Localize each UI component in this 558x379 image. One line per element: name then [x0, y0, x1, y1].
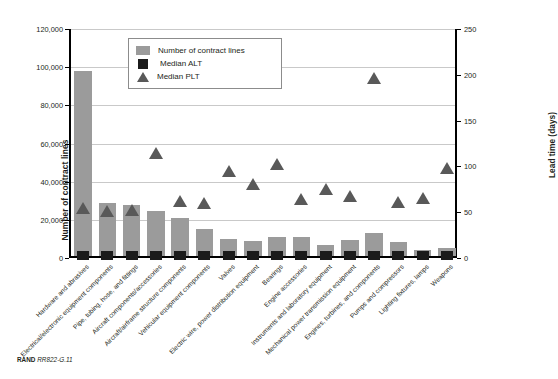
- median-alt-marker: [441, 251, 453, 260]
- y-tick-mark-right: [457, 258, 461, 259]
- x-axis-label: Valves: [217, 263, 236, 282]
- x-axis-label: Weapons: [429, 263, 454, 288]
- median-alt-marker: [150, 251, 162, 260]
- median-alt-marker: [126, 251, 138, 260]
- y-tick-label-left: 100,000: [36, 63, 63, 72]
- legend-label-median-plt: Median PLT: [157, 72, 200, 81]
- gridline: [71, 144, 455, 145]
- gridline: [71, 105, 455, 106]
- x-axis-label: Engine accessories: [263, 263, 309, 309]
- legend-item-median-alt: Median ALT: [136, 57, 274, 70]
- median-plt-marker: [173, 195, 187, 207]
- x-axis-label: Electrical/electronic equipment componen…: [19, 263, 115, 359]
- y-tick-label-right: 50: [464, 208, 472, 217]
- median-alt-marker: [198, 251, 210, 260]
- y-tick-mark-right: [457, 212, 461, 213]
- bar-swatch-icon: [136, 46, 150, 55]
- median-plt-marker: [222, 165, 236, 177]
- y-tick-label-right: 150: [464, 116, 476, 125]
- y-tick-mark-right: [457, 29, 461, 30]
- y-tick-mark-right: [457, 166, 461, 167]
- y-tick-label-left: 40,000: [40, 177, 63, 186]
- y-tick-label-left: 120,000: [36, 25, 63, 34]
- y-tick-mark-right: [457, 75, 461, 76]
- median-plt-marker: [391, 196, 405, 208]
- median-alt-marker: [392, 251, 404, 260]
- legend: Number of contract lines Median ALT Medi…: [128, 38, 282, 89]
- y-tick-mark-left: [65, 182, 69, 183]
- footer-id: RR822-G.11: [37, 356, 72, 363]
- y-tick-mark-right: [457, 121, 461, 122]
- median-plt-marker: [100, 205, 114, 217]
- y-tick-mark-left: [65, 29, 69, 30]
- y-tick-mark-left: [65, 67, 69, 68]
- x-axis-label: Mechanical power transmission equipment: [264, 263, 358, 357]
- y-tick-label-left: 20,000: [40, 215, 63, 224]
- footer-brand: RAND: [17, 356, 35, 363]
- median-plt-marker: [197, 197, 211, 209]
- median-alt-marker: [247, 251, 259, 260]
- median-plt-marker: [149, 147, 163, 159]
- median-alt-marker: [101, 251, 113, 260]
- bar-contract-lines: [147, 211, 165, 256]
- median-plt-marker: [319, 183, 333, 195]
- y-tick-label-left: 0: [59, 254, 63, 263]
- y-tick-label-right: 0: [464, 254, 468, 263]
- y-tick-mark-left: [65, 144, 69, 145]
- square-swatch-icon: [138, 59, 148, 69]
- legend-label-contract-lines: Number of contract lines: [158, 46, 245, 55]
- bar-contract-lines: [74, 71, 92, 256]
- median-alt-marker: [417, 251, 429, 260]
- legend-item-median-plt: Median PLT: [136, 70, 274, 83]
- legend-item-contract-lines: Number of contract lines: [136, 44, 274, 57]
- y-tick-label-right: 250: [464, 25, 476, 34]
- figure-root: Number of contract lines Lead time (days…: [0, 0, 558, 379]
- y-tick-label-left: 80,000: [40, 101, 63, 110]
- median-plt-marker: [246, 178, 260, 190]
- median-plt-marker: [367, 72, 381, 84]
- gridline: [71, 29, 455, 30]
- x-axis-label: Lighting fixtures, lamps: [377, 263, 430, 316]
- median-alt-marker: [271, 251, 283, 260]
- legend-label-median-alt: Median ALT: [160, 59, 202, 68]
- y-tick-label-left: 60,000: [40, 139, 63, 148]
- y-tick-mark-left: [65, 105, 69, 106]
- y-tick-label-right: 200: [464, 70, 476, 79]
- median-alt-marker: [77, 251, 89, 260]
- median-plt-marker: [440, 162, 454, 174]
- gridline: [71, 182, 455, 183]
- median-alt-marker: [295, 251, 307, 260]
- median-alt-marker: [320, 251, 332, 260]
- median-plt-marker: [270, 158, 284, 170]
- median-alt-marker: [344, 251, 356, 260]
- median-alt-marker: [174, 251, 186, 260]
- median-plt-marker: [76, 202, 90, 214]
- y-tick-mark-left: [65, 220, 69, 221]
- median-alt-marker: [223, 251, 235, 260]
- figure-footer: RAND RR822-G.11: [17, 356, 73, 363]
- y-tick-mark-left: [65, 258, 69, 259]
- y-axis-title-right: Lead time (days): [547, 112, 557, 178]
- median-plt-marker: [294, 193, 308, 205]
- y-tick-label-right: 100: [464, 162, 476, 171]
- median-plt-marker: [343, 190, 357, 202]
- median-plt-marker: [416, 192, 430, 204]
- x-axis-label: Electric wire, power distribution equipm…: [168, 263, 261, 356]
- median-alt-marker: [368, 251, 380, 260]
- triangle-swatch-icon: [137, 72, 149, 82]
- median-plt-marker: [125, 204, 139, 216]
